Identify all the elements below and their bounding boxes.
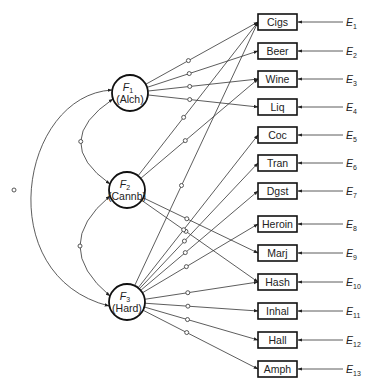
covariance-f1-f3 [12,90,112,306]
indicator-amph: Amph [258,361,297,377]
indicator-label: Tran [267,157,288,169]
indicator-label: Wine [266,73,290,85]
indicator-label: Inhal [266,305,289,317]
loading-f3-cigs [135,22,258,286]
factor-name: (Alch) [116,93,143,105]
error-term-e2: E2 [298,45,357,59]
indicator-label: Beer [266,45,289,57]
loading-f3-heroin [142,224,258,293]
error-label: E2 [346,45,357,59]
error-term-e5: E5 [298,129,357,143]
error-label: E5 [346,129,357,143]
error-label: E9 [346,247,357,261]
error-term-e12: E12 [298,334,361,348]
loading-f3-inhal [145,303,258,311]
indicator-label: Heroin [262,218,293,230]
error-label: E12 [346,334,361,348]
indicator-boxes: CigsBeerWineLiqCocTranDgstHeroinMarjHash… [258,14,297,377]
indicator-marj: Marj [258,245,297,261]
parameter-marker [185,331,189,335]
indicator-cigs: Cigs [258,14,297,30]
loading-f1-beer [147,51,258,87]
parameter-marker [78,244,82,248]
covariance-f2-f3 [78,196,110,296]
loading-f2-cigs [138,22,258,176]
parameter-marker [186,304,190,308]
error-term-e6: E6 [298,157,357,171]
parameter-marker [182,239,186,243]
parameter-marker [186,291,190,295]
factor-f2: F2(Cannb) [108,172,146,208]
parameter-marker [182,115,186,119]
error-term-e1: E1 [298,16,357,30]
parameter-marker [184,265,188,269]
loading-f1-cigs [146,22,258,84]
indicator-dgst: Dgst [258,183,297,199]
indicator-heroin: Heroin [258,216,297,232]
loading-f2-hash [142,200,258,282]
error-term-e3: E3 [298,73,357,87]
factor-loadings [135,22,258,369]
error-label: E8 [346,218,357,232]
error-term-e9: E9 [298,247,357,261]
factor-f1: F1(Alch) [112,75,148,111]
indicator-label: Cigs [267,16,288,28]
loading-f1-wine [148,79,258,91]
error-label: E7 [346,185,357,199]
indicator-hall: Hall [258,332,297,348]
parameter-marker [183,251,187,255]
parameter-marker [12,188,16,192]
covariance-f1-f2 [79,99,113,184]
error-term-e13: E13 [298,363,361,377]
indicator-tran: Tran [258,155,297,171]
indicator-coc: Coc [258,127,297,143]
error-label: E4 [346,101,357,115]
indicator-label: Hash [265,276,290,288]
parameter-marker [186,59,190,63]
indicator-label: Coc [268,129,287,141]
parameter-marker [183,139,187,143]
loading-f3-hall [144,307,258,340]
indicator-label: Dgst [267,185,289,197]
indicator-wine: Wine [258,71,297,87]
error-term-e8: E8 [298,218,357,232]
loading-f3-tran [139,163,258,289]
parameter-marker [188,98,192,102]
factor-f3: F3(Hard) [109,284,145,320]
parameter-marker [182,228,186,232]
indicator-label: Marj [267,247,287,259]
indicator-label: Amph [264,363,292,375]
factor-covariances [12,90,113,306]
error-label: E11 [346,305,360,319]
error-term-e7: E7 [298,185,357,199]
loading-f3-amph [143,310,258,369]
error-label: E1 [346,16,357,30]
error-label: E3 [346,73,357,87]
factor-name: (Cannb) [108,190,146,202]
indicator-liq: Liq [258,99,297,115]
indicator-inhal: Inhal [258,303,297,319]
loading-f1-liq [148,95,258,107]
indicator-beer: Beer [258,43,297,59]
parameter-marker [79,140,83,144]
factor-name: (Hard) [112,302,142,314]
error-term-e10: E10 [298,276,361,290]
loading-f2-wine [141,79,258,178]
parameter-marker [185,217,189,221]
error-label: E6 [346,157,357,171]
parameter-marker [187,72,191,76]
parameter-marker [185,318,189,322]
error-label: E13 [346,363,361,377]
indicator-label: Hall [268,334,286,346]
parameter-marker [188,84,192,88]
error-term-e4: E4 [298,101,357,115]
parameter-marker [180,183,184,187]
error-label: E10 [346,276,361,290]
loading-f3-coc [138,135,258,288]
error-terms: E1E2E3E4E5E6E7E8E9E10E11E12E13 [298,16,361,377]
indicator-label: Liq [270,101,284,113]
loading-f3-dgst [141,191,258,290]
error-term-e11: E11 [298,305,360,319]
indicator-hash: Hash [258,274,297,290]
loading-f3-hash [145,282,258,299]
